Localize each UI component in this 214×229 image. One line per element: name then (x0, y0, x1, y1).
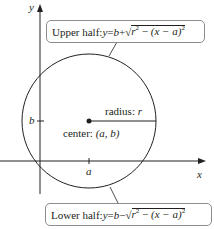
lower-leader-line (110, 187, 118, 203)
upper-leader-line (109, 42, 117, 56)
y-tick-label: b (29, 115, 35, 126)
radicand: r2 − (x − a)2 (131, 25, 185, 38)
y-axis-label: y (29, 2, 34, 13)
x-axis-arrow-icon (198, 158, 206, 164)
lower-half-equation-box: Lower half: y = b − √r2 − (x − a)2 (45, 203, 212, 226)
upper-half-equation-box: Upper half: y = b + √r2 − (x − a)2 (46, 20, 205, 43)
radicand: r2 − (x − a)2 (132, 208, 186, 221)
center-point (87, 119, 92, 124)
radius-label: radius: r (105, 106, 142, 117)
y-axis-arrow-icon (37, 4, 43, 12)
x-axis-label: x (197, 169, 202, 180)
center-label: center: (a, b) (63, 128, 120, 139)
x-tick-label: a (86, 166, 92, 177)
